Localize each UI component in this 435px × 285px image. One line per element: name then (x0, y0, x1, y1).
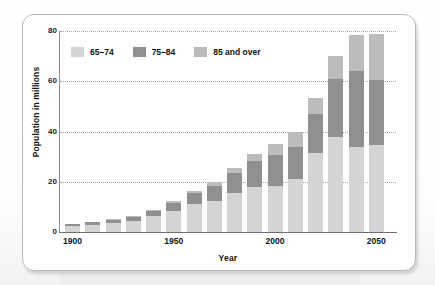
bar-2000 (268, 144, 283, 232)
legend-label-1: 75–84 (152, 47, 176, 57)
page-scan-artifact-bottom (60, 272, 360, 283)
legend-item-2: 85 and over (194, 47, 260, 57)
x-axis-title: Year (59, 253, 397, 263)
bar-segment-2040-65–74 (349, 147, 364, 232)
y-tick-label-0: 0 (35, 227, 57, 236)
bar-2050 (369, 34, 384, 232)
x-axis-line (59, 232, 397, 233)
bar-segment-2050-75–84 (369, 80, 384, 145)
bar-segment-2000-85-and-over (268, 144, 283, 155)
legend-swatch-0 (71, 47, 84, 57)
bar-segment-2010-85-and-over (288, 132, 303, 146)
figure-root: 020406080 1900195020002050 Population in… (0, 0, 435, 285)
bar-2010 (288, 132, 303, 232)
bar-segment-1950-75–84 (166, 203, 181, 211)
legend-label-2: 85 and over (213, 47, 260, 57)
bar-segment-1950-65–74 (166, 211, 181, 232)
y-tick-label-80: 80 (35, 26, 57, 35)
bar-2020 (308, 98, 323, 232)
x-tick-label-2050: 2050 (367, 236, 386, 246)
bar-segment-2030-85-and-over (328, 56, 343, 78)
bar-2030 (328, 56, 343, 232)
y-axis-title: Population in millions (31, 37, 41, 187)
legend-swatch-2 (194, 47, 207, 57)
bar-segment-1990-75–84 (247, 161, 262, 186)
bar-segment-1960-65–74 (187, 204, 202, 232)
bar-1900 (65, 224, 80, 232)
legend-label-0: 65–74 (90, 47, 114, 57)
bar-1910 (85, 222, 100, 232)
legend-swatch-1 (133, 47, 146, 57)
bar-segment-2040-85-and-over (349, 35, 364, 71)
bar-1920 (106, 219, 121, 232)
bar-1950 (166, 201, 181, 232)
bar-segment-2020-75–84 (308, 114, 323, 153)
bar-segment-2010-75–84 (288, 147, 303, 180)
bar-segment-1930-65–74 (126, 221, 141, 232)
chart-card: 020406080 1900195020002050 Population in… (22, 14, 416, 271)
bar-segment-2050-65–74 (369, 145, 384, 232)
bar-segment-1940-65–74 (146, 216, 161, 232)
bar-segment-2030-75–84 (328, 79, 343, 138)
bar-segment-1970-65–74 (207, 201, 222, 232)
bar-segment-1990-85-and-over (247, 154, 262, 162)
bar-segment-2000-75–84 (268, 155, 283, 186)
bar-1970 (207, 182, 222, 232)
bar-segment-1980-65–74 (227, 193, 242, 232)
bar-segment-2030-65–74 (328, 137, 343, 232)
bar-segment-1970-75–84 (207, 186, 222, 201)
bar-segment-1920-65–74 (106, 223, 121, 232)
bar-segment-2000-65–74 (268, 186, 283, 232)
bar-1990 (247, 154, 262, 232)
bar-segment-2020-85-and-over (308, 98, 323, 115)
bar-2040 (349, 35, 364, 232)
bar-series-container (59, 31, 397, 232)
chart-legend: 65–7475–8485 and over (71, 47, 280, 57)
bar-segment-1990-65–74 (247, 187, 262, 232)
bar-segment-2020-65–74 (308, 153, 323, 232)
legend-item-0: 65–74 (71, 47, 114, 57)
bar-segment-1910-65–74 (85, 225, 100, 232)
bar-segment-1960-75–84 (187, 193, 202, 205)
x-tick-label-1950: 1950 (164, 236, 183, 246)
bar-segment-2050-85-and-over (369, 34, 384, 80)
bar-1980 (227, 168, 242, 232)
bar-segment-2040-75–84 (349, 71, 364, 147)
bar-1930 (126, 216, 141, 232)
bar-1960 (187, 191, 202, 232)
bar-segment-2010-65–74 (288, 179, 303, 232)
bar-1940 (146, 210, 161, 232)
x-tick-label-1900: 1900 (63, 236, 82, 246)
legend-item-1: 75–84 (133, 47, 176, 57)
bar-segment-1900-65–74 (65, 226, 80, 232)
plot-area: 020406080 1900195020002050 Population in… (23, 15, 415, 270)
x-tick-label-2000: 2000 (266, 236, 285, 246)
bar-segment-1980-75–84 (227, 173, 242, 192)
